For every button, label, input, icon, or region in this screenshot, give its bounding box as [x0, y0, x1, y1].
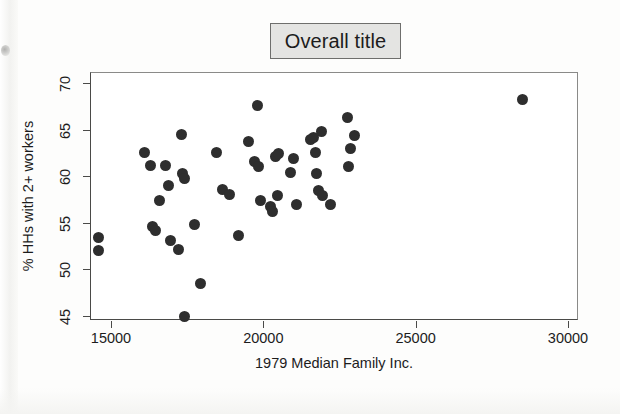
- y-axis-tick: [83, 223, 90, 224]
- y-axis-tick: [83, 83, 90, 84]
- x-axis-tick: [263, 321, 264, 328]
- scan-artifact-bottom: [0, 388, 620, 414]
- x-axis-tick-label: 30000: [528, 330, 608, 346]
- x-axis-tick-label: 20000: [223, 330, 303, 346]
- x-axis-tick: [416, 321, 417, 328]
- y-axis-tick: [83, 176, 90, 177]
- y-axis-tick: [83, 269, 90, 270]
- y-axis-label: % HHs with 2+ workers: [20, 121, 36, 271]
- y-axis-tick: [83, 130, 90, 131]
- x-axis-tick: [568, 321, 569, 328]
- x-axis-tick: [111, 321, 112, 328]
- scan-artifact-left-edge: [0, 0, 18, 414]
- plot-area-frame: [90, 72, 578, 320]
- x-axis-tick-label: 15000: [71, 330, 151, 346]
- chart-title-box: Overall title: [270, 23, 401, 59]
- x-axis-label: 1979 Median Family Inc.: [255, 355, 413, 371]
- figure-page: Overall title % HHs with 2+ workers 1979…: [0, 0, 620, 414]
- x-axis-tick-label: 25000: [376, 330, 456, 346]
- scan-speck: [1, 45, 10, 56]
- chart-title: Overall title: [285, 30, 386, 53]
- y-axis-tick: [83, 316, 90, 317]
